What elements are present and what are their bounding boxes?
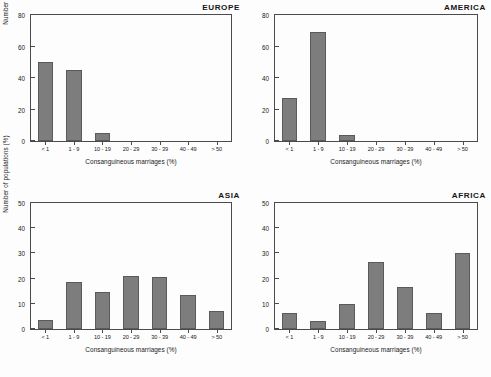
x-axis-tick — [102, 329, 103, 333]
bar-slot — [397, 203, 413, 329]
x-axis-tick — [318, 329, 319, 333]
y-axis-tick-label: 0 — [21, 326, 25, 333]
x-axis-tick — [405, 329, 406, 333]
x-axis-tick — [188, 329, 189, 333]
y-axis-tick — [275, 278, 279, 279]
y-axis-tick-label: 60 — [18, 43, 25, 50]
bar-slot — [368, 203, 384, 329]
y-axis-tick-label: 30 — [18, 250, 25, 257]
bar-series-america — [275, 15, 477, 141]
x-axis-tick-label: 20 - 29 — [123, 146, 140, 152]
bar — [95, 292, 110, 329]
x-axis-tick — [376, 329, 377, 333]
chart-panel-asia: Number of populations (%) ASIA 010203040… — [0, 188, 245, 376]
x-axis-tick — [463, 329, 464, 333]
bar — [282, 313, 298, 329]
x-axis-tick — [160, 141, 161, 145]
x-axis-tick-label: 30 - 39 — [151, 334, 168, 340]
x-axis-tick-label: < 1 — [41, 146, 49, 152]
y-axis-tick-label: 40 — [262, 75, 269, 82]
y-axis-tick-label: 80 — [262, 12, 269, 19]
y-axis-title: Number of populations (%) — [2, 122, 12, 226]
y-axis-tick — [275, 140, 279, 141]
bar-slot — [426, 203, 442, 329]
bar-slot — [310, 203, 326, 329]
bar-slot — [95, 203, 110, 329]
bar — [339, 304, 355, 329]
x-axis-tick — [217, 329, 218, 333]
y-axis-tick-label: 20 — [262, 106, 269, 113]
y-axis-tick-label: 20 — [18, 275, 25, 282]
x-axis-tick — [74, 141, 75, 145]
x-axis-tick-label: 1 - 9 — [313, 146, 324, 152]
x-axis-tick-label: > 50 — [211, 146, 222, 152]
y-axis-tick — [275, 303, 279, 304]
bar-slot — [282, 203, 298, 329]
y-axis-tick-label: 20 — [18, 106, 25, 113]
y-axis-tick — [31, 278, 35, 279]
x-axis-tick — [74, 329, 75, 333]
x-axis-tick-label: 30 - 39 — [396, 334, 413, 340]
y-axis-tick-label: 20 — [262, 275, 269, 282]
chart-panel-america: AMERICA 020406080< 11 - 910 - 1920 - 293… — [246, 0, 491, 188]
bar — [426, 313, 442, 329]
y-axis-tick-label: 40 — [18, 75, 25, 82]
x-axis-tick — [45, 141, 46, 145]
y-axis-tick-label: 40 — [18, 225, 25, 232]
x-axis-tick — [131, 141, 132, 145]
x-axis-tick — [289, 141, 290, 145]
bar-slot — [455, 203, 471, 329]
x-axis-tick-label: 40 - 49 — [180, 146, 197, 152]
x-axis-title: Consanguineous marriages (%) — [30, 158, 232, 165]
x-axis-tick-label: 10 - 19 — [94, 334, 111, 340]
y-axis-tick — [31, 14, 35, 15]
bar — [152, 277, 167, 329]
bar-slot — [95, 15, 110, 141]
x-axis-tick — [405, 141, 406, 145]
bar-slot — [339, 15, 355, 141]
x-axis-tick-label: 20 - 29 — [368, 334, 385, 340]
bar — [455, 253, 471, 329]
y-axis-tick-label: 60 — [262, 43, 269, 50]
bar — [66, 70, 81, 141]
bar — [368, 262, 384, 329]
x-axis-tick — [188, 141, 189, 145]
x-axis-tick — [376, 141, 377, 145]
plot-area-africa: 01020304050< 11 - 910 - 1920 - 2930 - 39… — [274, 202, 478, 330]
x-axis-tick-label: < 1 — [286, 334, 294, 340]
x-axis-tick — [347, 329, 348, 333]
bar — [66, 282, 81, 329]
y-axis-tick — [31, 303, 35, 304]
bar-series-asia — [31, 203, 231, 329]
y-axis-tick — [31, 328, 35, 329]
bar-slot — [38, 15, 53, 141]
bar — [38, 320, 53, 329]
x-axis-tick-label: 10 - 19 — [339, 146, 356, 152]
y-axis-tick — [31, 140, 35, 141]
y-axis-tick-label: 30 — [262, 250, 269, 257]
bar — [95, 133, 110, 141]
bar-series-africa — [275, 203, 477, 329]
x-axis-tick-label: 10 - 19 — [339, 334, 356, 340]
y-axis-tick-label: 0 — [265, 138, 269, 145]
x-axis-tick-label: 30 - 39 — [396, 146, 413, 152]
y-axis-tick — [275, 46, 279, 47]
y-axis-tick — [275, 252, 279, 253]
y-axis-tick-label: 10 — [18, 300, 25, 307]
x-axis-title: Consanguineous marriages (%) — [274, 158, 478, 165]
y-axis-tick-label: 40 — [262, 225, 269, 232]
x-axis-tick-label: 1 - 9 — [68, 146, 79, 152]
x-axis-tick-label: < 1 — [41, 334, 49, 340]
chart-panel-africa: AFRICA 01020304050< 11 - 910 - 1920 - 29… — [246, 188, 491, 376]
panel-title-america: AMERICA — [444, 3, 486, 12]
x-axis-tick-label: > 50 — [457, 334, 468, 340]
panel-title-europe: EUROPE — [202, 3, 240, 12]
panel-title-africa: AFRICA — [452, 191, 486, 200]
bar-slot — [282, 15, 298, 141]
panel-title-asia: ASIA — [218, 191, 240, 200]
x-axis-tick — [289, 329, 290, 333]
bar — [310, 321, 326, 329]
x-axis-tick-label: 1 - 9 — [313, 334, 324, 340]
plot-area-europe: 020406080< 11 - 910 - 1920 - 2930 - 3940… — [30, 14, 232, 142]
bar-slot — [66, 15, 81, 141]
